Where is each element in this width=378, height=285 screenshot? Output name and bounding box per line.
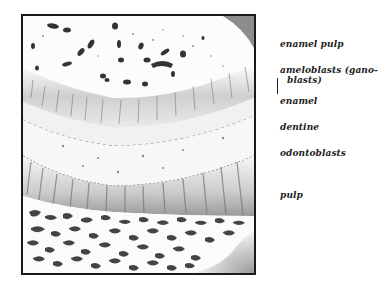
leader-line [277, 78, 278, 94]
tooth-section-figure [21, 14, 256, 275]
label-pulp: pulp [280, 190, 303, 200]
label-dentine: dentine [280, 122, 319, 132]
label-enamel-pulp: enamel pulp [280, 39, 344, 49]
label-odontoblasts: odontoblasts [280, 148, 346, 158]
tooth-histology-drawing [23, 16, 254, 273]
label-enamel: enamel [280, 96, 317, 106]
label-ameloblasts: ameloblasts (gano- [280, 65, 378, 75]
label-ameloblasts-continued: blasts) [287, 75, 322, 85]
